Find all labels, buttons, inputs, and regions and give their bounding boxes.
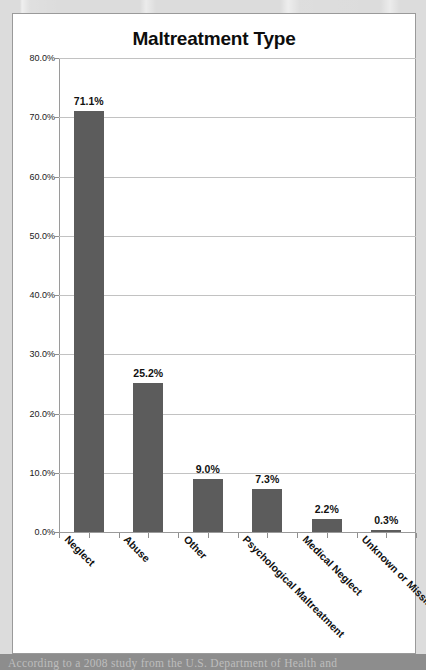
- x-axis-category-label: Medical Neglect: [300, 533, 365, 598]
- bar[interactable]: [312, 519, 342, 532]
- bar[interactable]: [133, 383, 163, 532]
- plot-area: 71.1%25.2%9.0%7.3%2.2%0.3%: [59, 58, 416, 532]
- chart-panel: Maltreatment Type 0.0%10.0%20.0%30.0%40.…: [12, 13, 416, 654]
- bar-value-label: 7.3%: [255, 473, 279, 485]
- y-axis-tick-label: 70.0%: [29, 112, 55, 122]
- chart-title: Maltreatment Type: [13, 28, 415, 50]
- bar[interactable]: [74, 111, 104, 532]
- x-axis-category-label: Other: [181, 533, 209, 561]
- caption-text: According to a 2008 study from the U.S. …: [8, 657, 420, 669]
- page-caption-strip: According to a 2008 study from the U.S. …: [0, 654, 426, 670]
- y-axis-tick-label: 10.0%: [29, 468, 55, 478]
- x-axis-category-label: Neglect: [62, 533, 97, 568]
- gridline: [59, 414, 416, 415]
- y-axis-tick-label: 20.0%: [29, 409, 55, 419]
- gridline: [59, 117, 416, 118]
- y-axis-tick-label: 60.0%: [29, 172, 55, 182]
- gridline: [59, 177, 416, 178]
- bar[interactable]: [252, 489, 282, 532]
- y-axis-tick-label: 0.0%: [34, 527, 55, 537]
- x-axis-category-label: Unknown or Missing: [360, 533, 426, 614]
- bar-value-label: 2.2%: [315, 503, 339, 515]
- gridline: [59, 473, 416, 474]
- bar[interactable]: [193, 479, 223, 532]
- y-axis-tick-label: 50.0%: [29, 231, 55, 241]
- gridline: [59, 354, 416, 355]
- y-axis-tick-label: 40.0%: [29, 290, 55, 300]
- y-axis-tick-labels: 0.0%10.0%20.0%30.0%40.0%50.0%60.0%70.0%8…: [13, 58, 55, 532]
- bar-value-label: 9.0%: [196, 463, 220, 475]
- y-axis-tick-label: 30.0%: [29, 349, 55, 359]
- gridline: [59, 236, 416, 237]
- gridline: [59, 295, 416, 296]
- bar-value-label: 71.1%: [74, 95, 104, 107]
- x-axis-tick-mark: [416, 533, 417, 538]
- bar[interactable]: [371, 530, 401, 533]
- gridline: [59, 58, 416, 59]
- x-axis-category-labels: NeglectAbuseOtherPsychological Maltreatm…: [59, 533, 416, 653]
- x-axis-category-label: Abuse: [122, 533, 153, 564]
- y-axis-tick-label: 80.0%: [29, 53, 55, 63]
- bar-value-label: 0.3%: [374, 514, 398, 526]
- x-axis-category-label: Psychological Maltreatment: [241, 533, 348, 640]
- bar-value-label: 25.2%: [133, 367, 163, 379]
